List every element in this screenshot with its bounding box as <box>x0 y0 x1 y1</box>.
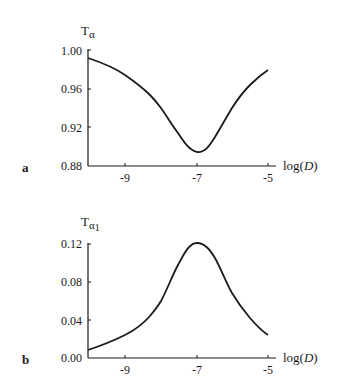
figure: Tα 1.00 0.96 0.92 0.88 -9 -7 -5 log(D) a… <box>0 0 342 390</box>
y-tick-label: 0.00 <box>61 351 82 365</box>
x-tick-label: -7 <box>192 171 202 185</box>
series-line-b <box>88 243 268 350</box>
y-tick-label: 0.12 <box>61 237 82 251</box>
x-tick-label: -5 <box>263 363 273 377</box>
panel-b: Tα1 0.12 0.08 0.04 0.00 -9 -7 -5 log(D) … <box>22 214 318 377</box>
y-tick-label: 0.08 <box>61 275 82 289</box>
x-axis-title-b: log(D) <box>283 350 318 365</box>
y-axis-title-b: Tα1 <box>81 214 100 233</box>
panel-label-a: a <box>22 160 29 175</box>
x-axis-title-a: log(D) <box>283 158 318 173</box>
x-tick-label: -5 <box>263 171 273 185</box>
x-tick-label: -9 <box>120 171 130 185</box>
y-tick-label: 0.92 <box>61 121 82 135</box>
y-tick-label: 0.88 <box>61 159 82 173</box>
y-tick-label: 0.96 <box>61 82 82 96</box>
panel-a: Tα 1.00 0.96 0.92 0.88 -9 -7 -5 log(D) a <box>22 23 318 185</box>
x-tick-label: -7 <box>192 363 202 377</box>
x-tick-label: -9 <box>120 363 130 377</box>
series-line-a <box>88 58 268 152</box>
panel-label-b: b <box>22 352 29 367</box>
y-tick-label: 1.00 <box>61 44 82 58</box>
y-tick-label: 0.04 <box>61 314 82 328</box>
y-axis-title-a: Tα <box>81 23 95 40</box>
